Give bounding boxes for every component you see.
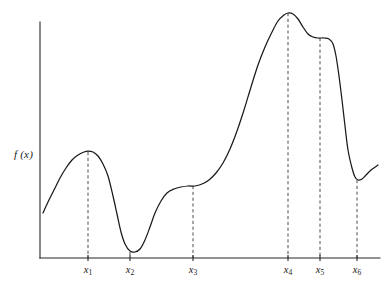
tick-label-variable: x <box>126 264 131 275</box>
tick-label-subscript: 2 <box>131 268 135 277</box>
tick-label-subscript: 5 <box>321 268 325 277</box>
curve-group <box>43 13 378 252</box>
y-axis-label: f (x) <box>14 148 33 160</box>
plot-canvas <box>0 0 391 285</box>
tick-label-variable: x <box>316 264 321 275</box>
tick-label-variable: x <box>284 264 289 275</box>
tick-label-variable: x <box>189 264 194 275</box>
tick-label-variable: x <box>353 264 358 275</box>
tick-label-variable: x <box>84 264 89 275</box>
figure-container: f (x) x1x2x3x4x5x6 <box>0 0 391 285</box>
tick-label-subscript: 6 <box>358 268 362 277</box>
tick-label-subscript: 3 <box>194 268 198 277</box>
tick-label-subscript: 4 <box>289 268 293 277</box>
x-tick-label-x1: x1 <box>84 264 93 277</box>
guide-lines-group <box>88 13 357 258</box>
x-tick-label-x2: x2 <box>126 264 135 277</box>
tick-label-subscript: 1 <box>89 268 93 277</box>
x-tick-label-x6: x6 <box>353 264 362 277</box>
function-curve <box>43 13 378 252</box>
x-tick-label-x5: x5 <box>316 264 325 277</box>
x-tick-label-x4: x4 <box>284 264 293 277</box>
x-tick-label-x3: x3 <box>189 264 198 277</box>
axes-group <box>40 22 380 258</box>
